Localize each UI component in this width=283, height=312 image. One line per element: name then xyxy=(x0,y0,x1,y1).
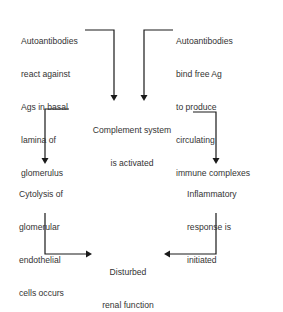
node-line: endothelial xyxy=(19,255,64,266)
node-line: renal function xyxy=(92,300,164,311)
node-line: Disturbed xyxy=(92,267,164,278)
node-inflammatory-response: Inflammatory response is initiated xyxy=(187,167,237,277)
node-line: Autoantibodies xyxy=(21,36,78,47)
node-line: Inflammatory xyxy=(187,189,237,200)
node-line: Ags in basal xyxy=(21,102,78,113)
node-autoantibodies-free-ag: Autoantibodies bind free Ag to produce c… xyxy=(176,14,250,190)
node-line: Autoantibodies xyxy=(176,36,250,47)
node-complement-activated: Complement system is activated xyxy=(78,103,186,180)
node-autoantibodies-basal-lamina: Autoantibodies react against Ags in basa… xyxy=(21,14,78,190)
node-line: lamina of xyxy=(21,135,78,146)
node-line: Cytolysis of xyxy=(19,189,64,200)
arrow-basal-to-complement xyxy=(85,30,118,101)
node-line: response is xyxy=(187,222,237,233)
node-cytolysis: Cytolysis of glomerular endothelial cell… xyxy=(19,167,64,310)
node-line: Complement system xyxy=(78,125,186,136)
node-line: react against xyxy=(21,69,78,80)
node-line: circulating xyxy=(176,135,250,146)
node-line: glomerular xyxy=(19,222,64,233)
node-line: initiated xyxy=(187,255,237,266)
arrow-free-to-complement xyxy=(141,30,174,101)
node-line: cells occurs xyxy=(19,288,64,299)
node-line: to produce xyxy=(176,102,250,113)
node-line: bind free Ag xyxy=(176,69,250,80)
node-line: is activated xyxy=(78,158,186,169)
node-disturbed-renal-function: Disturbed renal function xyxy=(92,245,164,312)
